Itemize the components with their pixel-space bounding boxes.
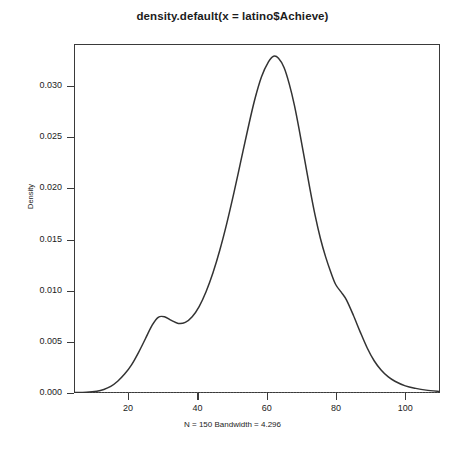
x-tick-mark [267,393,268,400]
y-tick-mark [67,240,74,241]
y-axis-title: Density [26,157,35,237]
density-plot: density.default(x = latino$Achieve) 2040… [0,0,465,453]
x-tick-label: 80 [316,403,356,413]
y-tick-mark [67,291,74,292]
plot-panel-frame [74,44,440,393]
x-tick-mark [405,393,406,400]
page-title: density.default(x = latino$Achieve) [0,10,465,22]
y-tick-mark [67,86,74,87]
y-tick-mark [67,393,74,394]
x-axis-caption: N = 150 Bandwidth = 4.296 [0,420,465,429]
y-tick-mark [67,137,74,138]
y-tick-label: 0.030 [0,80,62,90]
y-tick-label: 0.000 [0,387,62,397]
x-tick-label: 60 [247,403,287,413]
y-tick-label: 0.010 [0,285,62,295]
y-tick-label: 0.025 [0,131,62,141]
x-tick-label: 40 [177,403,217,413]
x-tick-label: 20 [108,403,148,413]
y-tick-mark [67,342,74,343]
x-tick-mark [128,393,129,400]
x-tick-label: 100 [385,403,425,413]
x-tick-mark [336,393,337,400]
x-tick-mark [197,393,198,400]
y-tick-label: 0.005 [0,336,62,346]
y-tick-mark [67,188,74,189]
